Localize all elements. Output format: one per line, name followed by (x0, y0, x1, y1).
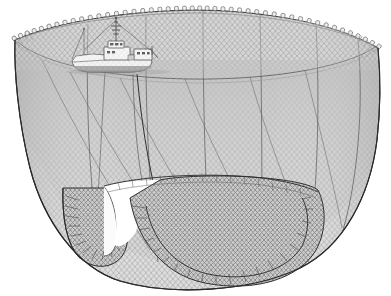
float (255, 9, 259, 14)
float (237, 8, 241, 13)
float (132, 9, 136, 14)
purse-seine-figure: Purse seine net set by a fishing vessel (0, 0, 391, 296)
float (158, 7, 162, 11)
float (190, 6, 194, 10)
float (114, 11, 119, 16)
float (246, 9, 250, 14)
float (263, 10, 268, 15)
float (229, 7, 233, 11)
float (198, 6, 202, 10)
float (182, 6, 186, 10)
float (221, 7, 225, 11)
float (141, 8, 145, 13)
float (166, 7, 170, 11)
float (272, 12, 277, 17)
float (105, 12, 110, 17)
float (123, 10, 127, 15)
float (174, 6, 178, 10)
purse-seine-illustration (0, 0, 391, 296)
float (149, 8, 153, 12)
float (205, 6, 209, 10)
float (213, 6, 217, 10)
